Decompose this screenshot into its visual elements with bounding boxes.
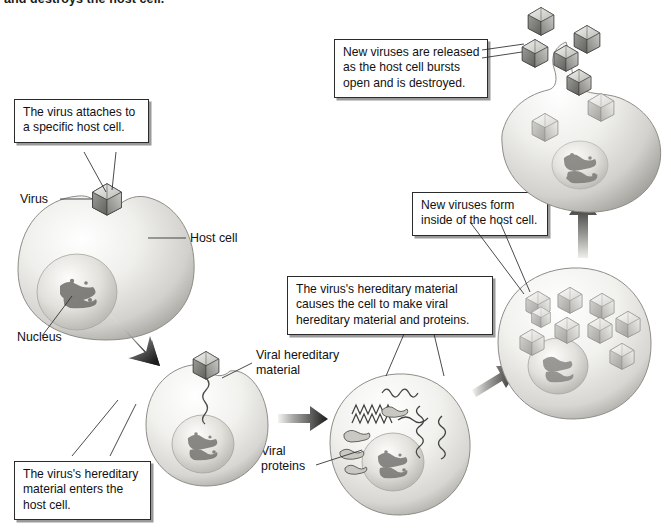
- virus-particle: [528, 8, 554, 36]
- virus-particle: [610, 343, 634, 369]
- arrow-stage1-to-stage2: [108, 312, 160, 366]
- callout-line: hereditary material and proteins.: [296, 313, 485, 328]
- virus-particle: [558, 287, 582, 313]
- cell-stage-lysis: [502, 8, 661, 213]
- cell-stage-attachment: [18, 184, 194, 340]
- callout-line: material enters the: [23, 482, 143, 497]
- viral-proteins: [340, 407, 408, 475]
- label-nucleus: Nucleus: [17, 330, 62, 345]
- virus-particle: [526, 291, 550, 317]
- label-viral-hereditary-material: Viral hereditary material: [256, 348, 339, 377]
- callout-line: The virus's hereditary: [23, 467, 143, 482]
- callout-line: inside of the host cell.: [421, 213, 540, 228]
- label-line: Viral hereditary: [256, 348, 339, 363]
- callout-material-enters: The virus's hereditary material enters t…: [14, 461, 151, 520]
- virus-particle: [616, 311, 640, 337]
- label-line: proteins: [261, 459, 305, 474]
- arrow-stage4-to-stage5: [569, 194, 597, 258]
- callout-line: host cell.: [23, 498, 143, 513]
- callout-new-viruses-released: New viruses are released as the host cel…: [334, 39, 488, 98]
- virus-particle: [588, 94, 614, 122]
- callout-cell-makes-viral-parts: The virus's hereditary material causes t…: [287, 276, 493, 335]
- virus-particle: [520, 329, 544, 355]
- virus-particle: [555, 317, 579, 343]
- page-top-caption: and destroys the host cell.: [4, 0, 164, 6]
- virus-particle: [590, 293, 614, 319]
- cell-stage-assembly: [498, 268, 651, 419]
- virus-particle: [574, 26, 600, 54]
- virus-replication-diagram: and destroys the host cell. The virus at…: [0, 0, 671, 530]
- arrow-stage2-to-stage3: [278, 406, 328, 431]
- virus-particle: [93, 184, 122, 215]
- cell-stage-replication: [330, 374, 470, 515]
- virus-particle: [522, 40, 548, 68]
- virus-particle: [532, 307, 551, 327]
- callout-line: open and is destroyed.: [343, 76, 480, 91]
- callout-line: New viruses form: [421, 198, 540, 213]
- callout-line: causes the cell to make viral: [296, 297, 485, 312]
- callout-line: New viruses are released: [343, 45, 480, 60]
- virus-particle: [193, 352, 219, 380]
- cell-stage-entry: [146, 352, 268, 487]
- callout-line: a specific host cell.: [23, 120, 141, 135]
- virus-particle: [567, 69, 591, 95]
- virus-particle: [554, 45, 578, 71]
- label-line: material: [256, 363, 339, 378]
- label-host-cell: Host cell: [190, 231, 238, 246]
- viral-hereditary-material: [352, 389, 446, 459]
- callout-line: as the host cell bursts: [343, 60, 480, 75]
- label-viral-proteins: Viral proteins: [261, 444, 305, 473]
- label-line: Viral: [261, 444, 305, 459]
- callout-new-viruses-form: New viruses form inside of the host cell…: [412, 192, 548, 236]
- arrow-stage3-to-stage4: [472, 366, 520, 397]
- virus-particle: [588, 317, 612, 343]
- virus-particle: [532, 114, 558, 142]
- callout-line: The virus attaches to: [23, 105, 141, 120]
- callout-virus-attaches: The virus attaches to a specific host ce…: [14, 99, 149, 143]
- label-virus: Virus: [20, 192, 48, 207]
- callout-line: The virus's hereditary material: [296, 282, 485, 297]
